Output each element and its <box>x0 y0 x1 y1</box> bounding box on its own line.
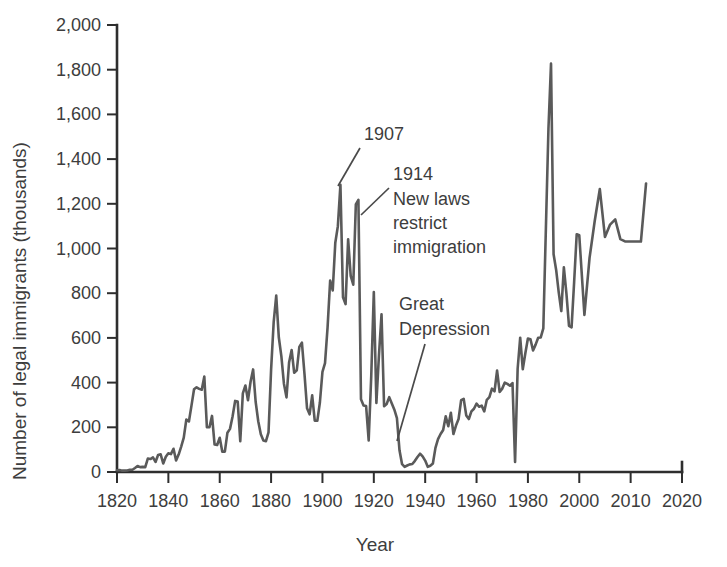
y-tick-label: 0 <box>91 462 101 482</box>
annotation-1914-label-line2: New laws <box>393 189 470 209</box>
y-tick-label: 1,600 <box>56 104 101 124</box>
x-tick-label: 1920 <box>354 491 394 511</box>
x-tick-label: 1820 <box>97 491 137 511</box>
y-axis-title: Number of legal immigrants (thousands) <box>9 142 30 480</box>
annotation-1914-label-line3: restrict <box>393 213 447 233</box>
x-tick-label: 2000 <box>559 491 599 511</box>
annotation-1914: 1914 New laws restrict immigration <box>361 164 486 257</box>
x-tick-label: 1900 <box>302 491 342 511</box>
y-tick-group: 02004006008001,0001,2001,4001,6001,8002,… <box>56 15 117 482</box>
annotation-depression-leader <box>397 344 425 441</box>
x-axis-title: Year <box>356 534 395 555</box>
immigration-line-chart: Number of legal immigrants (thousands) Y… <box>0 0 727 567</box>
y-tick-label: 1,400 <box>56 149 101 169</box>
y-tick-label: 800 <box>71 283 101 303</box>
annotation-depression-label-line1: Great <box>399 294 444 314</box>
y-tick-label: 600 <box>71 328 101 348</box>
annotation-1914-label-line1: 1914 <box>393 164 433 184</box>
annotation-great-depression: Great Depression <box>397 294 490 441</box>
x-tick-label: 1980 <box>508 491 548 511</box>
y-tick-label: 2,000 <box>56 15 101 35</box>
x-tick-label: 1840 <box>148 491 188 511</box>
annotation-1907-label: 1907 <box>364 124 404 144</box>
x-tick-label: 1940 <box>405 491 445 511</box>
annotation-1914-label-line4: immigration <box>393 237 486 257</box>
annotation-depression-label-line2: Depression <box>399 319 490 339</box>
x-tick-label: 2010 <box>611 491 651 511</box>
x-tick-label: 1960 <box>457 491 497 511</box>
x-tick-label: 1860 <box>200 491 240 511</box>
y-tick-label: 1,200 <box>56 194 101 214</box>
annotation-1914-leader <box>361 188 389 215</box>
y-tick-label: 1,800 <box>56 60 101 80</box>
x-tick-label: 2020 <box>662 491 702 511</box>
x-tick-group: 1820184018601880190019201940196019802000… <box>97 472 702 511</box>
y-tick-label: 200 <box>71 417 101 437</box>
chart-canvas: Number of legal immigrants (thousands) Y… <box>0 0 727 567</box>
y-tick-label: 400 <box>71 373 101 393</box>
y-tick-label: 1,000 <box>56 239 101 259</box>
annotation-1907-leader <box>338 148 360 186</box>
x-tick-label: 1880 <box>251 491 291 511</box>
